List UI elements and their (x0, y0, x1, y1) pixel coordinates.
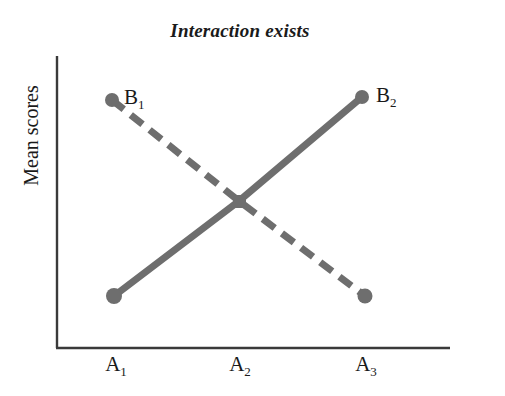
x-tick-label-a3-base: A (355, 352, 370, 376)
chart-figure: Interaction exists Mean scores B1 B2 A1 … (0, 0, 505, 396)
series-b2-point-a1 (106, 288, 122, 304)
series-crossing-point-a2 (233, 195, 246, 208)
x-tick-label-a1: A1 (86, 352, 146, 380)
series-b1-point-a3 (358, 289, 373, 304)
x-tick-label-a2-base: A (229, 352, 244, 376)
series-label-b2-subscript: 2 (390, 95, 397, 110)
x-tick-label-a2: A2 (210, 352, 270, 380)
x-tick-label-a2-subscript: 2 (244, 364, 251, 379)
series-label-b1-subscript: 1 (138, 97, 145, 112)
series-label-b2-base: B (376, 83, 390, 107)
x-tick-label-a3: A3 (336, 352, 396, 380)
series-b2-point-a3 (355, 90, 369, 104)
series-label-b1: B1 (124, 85, 145, 113)
series-label-b1-base: B (124, 85, 138, 109)
x-tick-label-a1-subscript: 1 (120, 364, 127, 379)
series-b1-point-a1 (105, 93, 119, 107)
series-label-b2: B2 (376, 83, 397, 111)
x-tick-label-a3-subscript: 3 (370, 364, 377, 379)
plot-area (0, 0, 505, 396)
x-tick-label-a1-base: A (105, 352, 120, 376)
